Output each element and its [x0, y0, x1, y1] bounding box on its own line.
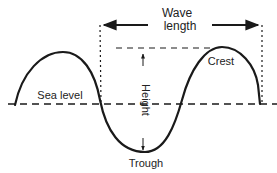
- wavelength-left-boundary: [100, 25, 101, 104]
- sea-level-label: Sea level: [37, 89, 82, 101]
- wave-diagram: Wave length Crest Sea level Trough Heigh…: [0, 0, 277, 173]
- height-label: Height: [140, 84, 152, 116]
- crest-label: Crest: [208, 55, 234, 67]
- trough-label: Trough: [129, 157, 163, 169]
- wavelength-label-line1: Wave: [162, 6, 193, 20]
- wavelength-label-line2: length: [164, 19, 197, 33]
